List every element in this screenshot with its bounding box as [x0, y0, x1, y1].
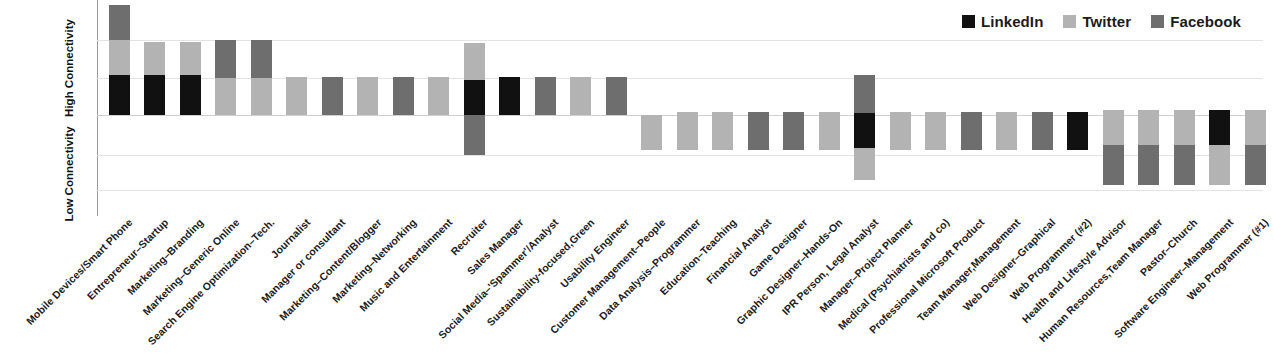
bar-segment-twitter [215, 78, 236, 115]
bar-segment-twitter [109, 40, 130, 75]
bar-segment-linkedin [854, 113, 875, 148]
bar-segment-linkedin [109, 75, 130, 115]
bar-segment-facebook [535, 77, 556, 115]
bar-segment-twitter [1174, 110, 1195, 145]
x-axis-label-text: Financial Analyst [704, 216, 774, 286]
bar-segment-twitter [464, 43, 485, 80]
bar-segment-twitter [144, 42, 165, 75]
bar-segment-facebook [215, 40, 236, 78]
bar-segment-twitter [251, 78, 272, 115]
y-axis-high-connectivity-label: High Connectivity [63, 19, 75, 117]
bar-segment-linkedin [464, 80, 485, 115]
bar-segment-facebook [606, 77, 627, 115]
x-axis-category-labels: Mobile Devices/Smart PhoneEntrepreneur–S… [0, 216, 1263, 356]
x-axis-label-text: Search Engine Optimization–Tech. [145, 216, 276, 347]
y-axis-low-connectivity-label: Low Connectivity [63, 126, 75, 221]
bar-segment-twitter [286, 77, 307, 115]
bar-segment-twitter [180, 42, 201, 75]
bar-segment-linkedin [499, 77, 520, 115]
bar-segment-facebook [854, 75, 875, 113]
bar-segment-facebook [109, 5, 130, 40]
y-axis-labels: High Connectivity Low Connectivity [56, 0, 82, 216]
bar-column[interactable] [499, 0, 520, 216]
bar-segment-twitter [570, 77, 591, 115]
bar-segment-facebook [251, 40, 272, 78]
bar-segment-twitter [819, 112, 840, 150]
bar-segment-facebook [393, 77, 414, 115]
bar-segment-linkedin [144, 75, 165, 115]
bar-segment-twitter [428, 77, 449, 115]
bar-segment-facebook [322, 77, 343, 115]
bar-column[interactable] [109, 0, 130, 216]
bar-segment-linkedin [180, 75, 201, 115]
